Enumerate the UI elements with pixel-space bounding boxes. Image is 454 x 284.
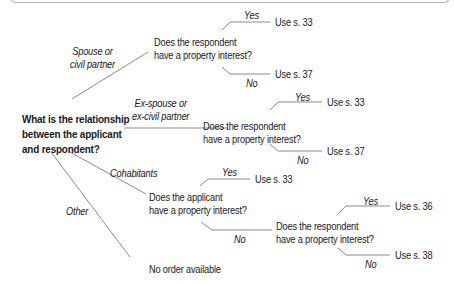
edge-cohab-yes — [200, 179, 250, 186]
branch-label-other: Other — [66, 205, 88, 218]
question-cohabitants: Does the applicant have a property inter… — [149, 191, 247, 217]
outcome-s38: Use s. 38 — [395, 249, 432, 262]
branch-label-spouse: Spouse or civil partner — [70, 45, 115, 71]
label-line: Ex-spouse or — [132, 97, 189, 110]
root-line-3: and respondent? — [22, 142, 129, 157]
outcome-s37: Use s. 37 — [275, 68, 312, 81]
no-label: No — [246, 77, 257, 90]
branch-label-ex-spouse: Ex-spouse or ex-civil partner — [132, 97, 189, 123]
outcome-s33: Use s. 33 — [275, 16, 312, 29]
question-line: Does the respondent — [276, 220, 374, 233]
edge-cohab-no — [201, 222, 272, 230]
outcome-s33: Use s. 33 — [327, 96, 364, 109]
outcome-s37: Use s. 37 — [327, 145, 364, 158]
question-line: Does the applicant — [149, 191, 247, 204]
yes-label: Yes — [295, 91, 310, 104]
root-line-1: What is the relationship — [22, 112, 129, 127]
outcome-s36: Use s. 36 — [395, 200, 432, 213]
question-line: have a property interest? — [203, 133, 301, 146]
yes-label: Yes — [363, 195, 378, 208]
outcome-s33: Use s. 33 — [255, 173, 292, 186]
edge-sub-no — [338, 248, 390, 255]
outcome-no-order: No order available — [149, 263, 221, 276]
question-line: Does the respondent — [203, 120, 301, 133]
yes-label: Yes — [244, 9, 259, 22]
branch-label-cohabitants: Cohabitants — [110, 167, 157, 180]
label-line: civil partner — [70, 58, 115, 71]
question-line: Does the respondent — [154, 36, 252, 49]
question-spouse: Does the respondent have a property inte… — [154, 36, 252, 62]
yes-label: Yes — [222, 166, 237, 179]
root-question: What is the relationship between the app… — [22, 112, 129, 157]
label-line: ex-civil partner — [132, 110, 189, 123]
no-label: No — [365, 258, 376, 271]
label-line: Spouse or — [70, 45, 115, 58]
question-line: have a property interest? — [276, 233, 374, 246]
no-label: No — [297, 154, 308, 167]
no-label: No — [234, 233, 245, 246]
edge-spouse-no — [222, 67, 270, 74]
sub-question-respondent: Does the respondent have a property inte… — [276, 220, 374, 246]
root-line-2: between the applicant — [22, 127, 129, 142]
question-line: have a property interest? — [154, 49, 252, 62]
question-line: have a property interest? — [149, 204, 247, 217]
question-ex-spouse: Does the respondent have a property inte… — [203, 120, 301, 146]
edge-spouse-yes — [222, 22, 270, 30]
